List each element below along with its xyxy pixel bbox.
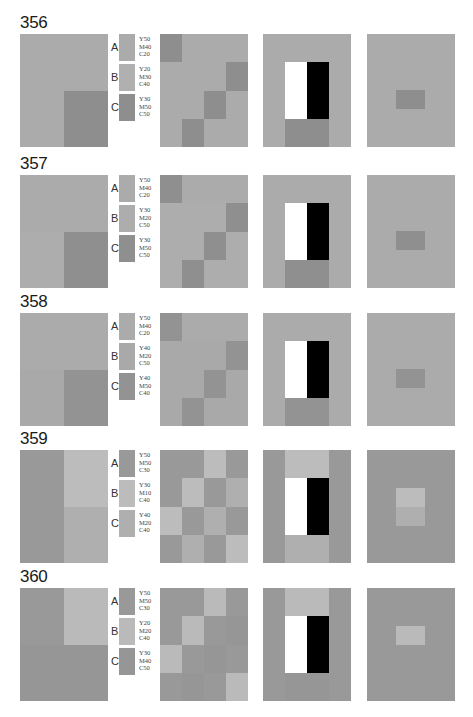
grid-cell: [204, 450, 226, 478]
grid-cell: [226, 341, 248, 369]
quadrant-cell: [20, 588, 64, 645]
swatch-value-c: C50: [139, 221, 151, 229]
grid-cell: [226, 673, 248, 701]
swatch-legend: AY50M40C20BY40M20C50CY40M50C40: [108, 313, 158, 426]
grid-cell: [204, 370, 226, 398]
grid-cell: [182, 34, 204, 62]
swatch-chip: [119, 94, 135, 121]
swatch-b: BY30M10C40: [108, 480, 158, 507]
center-patch-top: [396, 90, 425, 109]
grid-cell: [226, 175, 248, 203]
swatch-value-c: C40: [139, 80, 151, 88]
swatch-letter: B: [111, 350, 118, 362]
center-column-bottom: [285, 673, 329, 701]
grid-cell: [204, 203, 226, 231]
swatch-value-m: M50: [139, 459, 151, 467]
swatch-letter: C: [111, 517, 119, 529]
swatch-value-y: Y50: [139, 589, 151, 597]
chart-row-359: 359AY50M50C30BY30M10C40CY40M20C40: [0, 430, 473, 568]
quadrant-cell: [20, 370, 64, 427]
center-patch-panel: [367, 313, 455, 426]
black-bar: [307, 62, 329, 119]
swatch-b: BY40M20C50: [108, 343, 158, 370]
grid-cell: [160, 119, 182, 147]
grid-cell: [226, 645, 248, 673]
swatch-c: CY30M50C50: [108, 235, 158, 262]
grid-cell: [160, 34, 182, 62]
quadrant-cell: [20, 313, 64, 370]
swatch-b: BY20M20C40: [108, 618, 158, 645]
grid-cell: [204, 232, 226, 260]
swatch-letter: B: [111, 625, 118, 637]
center-patch-top: [396, 488, 425, 507]
swatch-letter: C: [111, 380, 119, 392]
center-column-top: [285, 588, 329, 616]
swatch-letter: B: [111, 71, 118, 83]
swatch-value-m: M50: [139, 597, 151, 605]
center-column-top: [285, 34, 329, 62]
swatch-chip: [119, 64, 135, 91]
grid-cell: [182, 645, 204, 673]
swatch-value-m: M20: [139, 519, 151, 527]
swatch-legend: AY50M40C20BY20M30C40CY30M50C50: [108, 34, 158, 147]
quadrant-cell: [64, 645, 108, 702]
swatch-value-c: C30: [139, 466, 151, 474]
swatch-value-m: M40: [139, 322, 151, 330]
swatch-chip: [119, 450, 135, 477]
quadrant-panel: [20, 588, 108, 701]
swatch-a: AY50M50C30: [108, 450, 158, 477]
grid-cell: [226, 260, 248, 288]
white-black-panel: [263, 450, 351, 563]
grid-cell: [204, 62, 226, 90]
grid-cell: [160, 398, 182, 426]
row-number: 359: [20, 430, 47, 448]
swatch-cmy-values: Y20M30C40: [139, 65, 151, 88]
grid-cell: [226, 62, 248, 90]
grid-cell: [160, 616, 182, 644]
grid-cell: [160, 673, 182, 701]
swatch-value-y: Y20: [139, 619, 151, 627]
swatch-letter: C: [111, 242, 119, 254]
chart-row-360: 360AY50M50C30BY20M20C40CY30M40C50: [0, 568, 473, 706]
row-number: 356: [20, 14, 47, 32]
swatch-value-y: Y30: [139, 95, 151, 103]
black-bar: [307, 341, 329, 398]
swatch-cmy-values: Y50M50C30: [139, 589, 151, 612]
swatch-value-c: C40: [139, 389, 151, 397]
grid-cell: [226, 203, 248, 231]
quadrant-panel: [20, 313, 108, 426]
grid-cell: [204, 260, 226, 288]
row-number: 360: [20, 568, 47, 586]
grid-cell: [160, 260, 182, 288]
swatch-cmy-values: Y30M10C40: [139, 481, 151, 504]
swatch-a: AY50M40C20: [108, 313, 158, 340]
checker-grid-panel: [160, 313, 248, 426]
swatch-cmy-values: Y50M40C20: [139, 35, 151, 58]
swatch-letter: B: [111, 212, 118, 224]
black-bar: [307, 616, 329, 673]
white-black-panel: [263, 34, 351, 147]
grid-cell: [204, 34, 226, 62]
grid-cell: [226, 232, 248, 260]
grid-cell: [160, 62, 182, 90]
black-bar: [307, 203, 329, 260]
center-patch-panel: [367, 588, 455, 701]
grid-cell: [226, 450, 248, 478]
center-column-top: [285, 175, 329, 203]
grid-cell: [182, 673, 204, 701]
grid-cell: [226, 616, 248, 644]
grid-cell: [160, 203, 182, 231]
swatch-value-m: M40: [139, 657, 151, 665]
quadrant-cell: [64, 313, 108, 370]
grid-cell: [182, 62, 204, 90]
swatch-value-y: Y40: [139, 374, 151, 382]
white-black-panel: [263, 313, 351, 426]
swatch-cmy-values: Y40M20C40: [139, 511, 151, 534]
grid-cell: [226, 507, 248, 535]
grid-cell: [160, 341, 182, 369]
grid-cell: [160, 175, 182, 203]
swatch-letter: C: [111, 101, 119, 113]
grid-cell: [204, 535, 226, 563]
swatch-b: BY30M20C50: [108, 205, 158, 232]
swatch-value-c: C50: [139, 664, 151, 672]
